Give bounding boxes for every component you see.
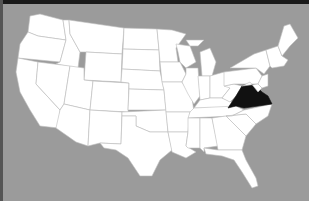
state-wyoming[interactable] <box>84 52 122 82</box>
state-indiana[interactable] <box>198 76 210 100</box>
us-map-frame: United States Virginia <box>0 0 309 201</box>
state-kansas[interactable] <box>128 89 166 110</box>
state-florida[interactable] <box>204 148 258 188</box>
state-iowa[interactable] <box>160 62 186 82</box>
state-south-dakota[interactable] <box>122 49 160 71</box>
state-maine[interactable] <box>278 24 298 56</box>
state-arkansas[interactable] <box>166 112 190 132</box>
us-map <box>0 0 309 201</box>
state-north-dakota[interactable] <box>123 28 159 50</box>
state-new-mexico[interactable] <box>88 110 122 146</box>
state-arizona[interactable] <box>56 104 90 146</box>
state-pennsylvania[interactable] <box>224 68 262 86</box>
state-mississippi[interactable] <box>186 118 200 148</box>
state-colorado[interactable] <box>90 81 129 112</box>
